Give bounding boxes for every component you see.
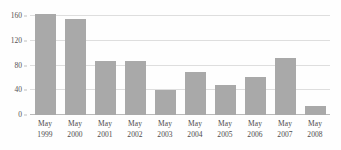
x-tick-label-month: May [300,118,330,129]
plot-area [30,10,330,115]
x-tick-label-month: May [180,118,210,129]
x-tick-label-month: May [90,118,120,129]
x-tick-label-year: 2006 [240,129,270,140]
y-axis: 04080120160 [0,0,27,150]
x-tick-label-year: 1999 [30,129,60,140]
x-tick-label: May2008 [300,118,330,140]
y-tick-mark [24,115,27,116]
y-tick-mark [24,40,27,41]
x-tick-label: May2003 [150,118,180,140]
x-tick-label-year: 2001 [90,129,120,140]
bar [185,72,206,115]
x-tick-label: May2001 [90,118,120,140]
x-tick-label-month: May [210,118,240,129]
y-tick-label: 40 [15,87,23,95]
x-tick-label-month: May [240,118,270,129]
x-tick-label-year: 2008 [300,129,330,140]
x-tick-label-month: May [150,118,180,129]
x-tick-label: May2005 [210,118,240,140]
x-tick-label: May2007 [270,118,300,140]
x-tick-label-year: 2007 [270,129,300,140]
bar [155,90,176,115]
x-tick-label: May2002 [120,118,150,140]
x-tick-label-month: May [120,118,150,129]
bar [275,58,296,115]
bar [125,61,146,115]
x-axis: May1999May2000May2001May2002May2003May20… [30,118,330,148]
x-tick-label-year: 2003 [150,129,180,140]
bar [65,19,86,115]
y-tick-mark [24,16,27,17]
y-tick-label: 0 [18,111,22,119]
x-tick-label-year: 2002 [120,129,150,140]
x-tick-label: May2000 [60,118,90,140]
bar [35,14,56,115]
bar [305,106,326,115]
bar-series [30,10,330,115]
x-tick-label: May2006 [240,118,270,140]
y-tick-label: 160 [11,12,22,20]
bar [95,61,116,115]
bar [215,85,236,115]
y-tick-label: 120 [11,37,22,45]
bar [245,77,266,115]
x-tick-label-year: 2000 [60,129,90,140]
x-tick-label-month: May [270,118,300,129]
y-tick-mark [24,90,27,91]
x-tick-label: May1999 [30,118,60,140]
bar-chart: 04080120160 May1999May2000May2001May2002… [0,0,341,150]
y-tick-label: 80 [15,62,23,70]
y-tick-mark [24,65,27,66]
x-tick-label-year: 2004 [180,129,210,140]
x-tick-label-month: May [60,118,90,129]
x-tick-label-month: May [30,118,60,129]
x-tick-label-year: 2005 [210,129,240,140]
x-tick-label: May2004 [180,118,210,140]
